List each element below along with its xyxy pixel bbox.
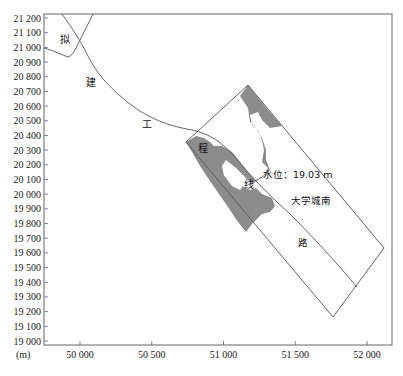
y-axis-ticks: 21 20021 10021 00020 90020 80020 70020 6… <box>14 13 49 347</box>
road-suffix-label: 路 <box>298 237 308 248</box>
road-name-label: 大学城南 <box>291 195 331 206</box>
y-tick-label: 19 600 <box>14 247 42 258</box>
flood-map: 21 20021 10021 00020 90020 80020 70020 6… <box>0 0 403 376</box>
x-tick-label: 50 500 <box>138 349 166 360</box>
y-tick-label: 19 300 <box>14 291 42 302</box>
y-tick-label: 20 000 <box>14 189 42 200</box>
label-cheng: 程 <box>198 143 208 154</box>
dry-island <box>226 106 240 128</box>
y-tick-label: 20 100 <box>14 174 42 185</box>
y-tick-label: 20 800 <box>14 71 42 82</box>
y-tick-label: 21 100 <box>14 27 42 38</box>
road-rectangle <box>186 85 384 317</box>
y-tick-label: 20 900 <box>14 57 42 68</box>
x-axis-ticks: 50 00050 50051 00051 50052 000 <box>66 341 381 360</box>
x-tick-label: 52 000 <box>353 349 381 360</box>
y-tick-label: 19 000 <box>14 336 42 347</box>
y-tick-label: 20 700 <box>14 86 42 97</box>
y-tick-label: 19 900 <box>14 203 42 214</box>
x-tick-label: 51 000 <box>210 349 238 360</box>
y-tick-label: 19 500 <box>14 262 42 273</box>
x-tick-label: 50 000 <box>66 349 94 360</box>
y-tick-label: 20 500 <box>14 115 42 126</box>
boundary-line <box>68 14 93 57</box>
boundary-line <box>44 48 68 57</box>
y-tick-label: 20 600 <box>14 101 42 112</box>
y-tick-label: 21 000 <box>14 42 42 53</box>
y-tick-label: 20 400 <box>14 130 42 141</box>
y-tick-label: 19 400 <box>14 277 42 288</box>
label-gong: 工 <box>142 119 152 130</box>
x-tick-label: 51 500 <box>282 349 310 360</box>
y-tick-label: 19 100 <box>14 321 42 332</box>
y-tick-label: 20 300 <box>14 145 42 156</box>
y-tick-label: 20 200 <box>14 159 42 170</box>
water-level-label: 水位：19.03 m <box>263 169 332 180</box>
label-ni: 拟 <box>60 33 70 45</box>
label-xian: 线 <box>244 178 254 190</box>
y-tick-label: 19 700 <box>14 233 42 244</box>
y-tick-label: 19 200 <box>14 306 42 317</box>
label-jian: 建 <box>86 76 96 88</box>
y-tick-label: 19 800 <box>14 218 42 229</box>
y-tick-label: 21 200 <box>14 13 42 24</box>
unit-label: (m) <box>16 349 30 361</box>
